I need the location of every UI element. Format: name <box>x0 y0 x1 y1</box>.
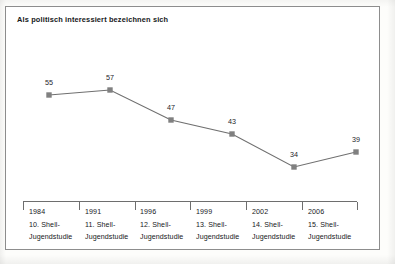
category-label-line: 11. Shell- <box>85 219 143 232</box>
category-label: 199111. Shell-Jugendstudie <box>85 206 143 244</box>
category-label-line: 14. Shell- <box>252 219 310 232</box>
category-label-line: 1999 <box>196 206 254 219</box>
category-label-line: 12. Shell- <box>140 219 198 232</box>
category-label-line: 1996 <box>140 206 198 219</box>
category-label: 200214. Shell-Jugendstudie <box>252 206 310 244</box>
data-point-marker <box>46 92 51 97</box>
data-point-marker <box>291 164 296 169</box>
category-label-line: Jugendstudie <box>196 231 254 244</box>
data-point-value: 57 <box>106 73 114 82</box>
chart-page: Als politisch interessiert bezeichnen si… <box>0 0 395 264</box>
category-label: 200615. Shell-Jugendstudie <box>308 206 366 244</box>
data-point-marker <box>107 87 112 92</box>
category-label-line: 1984 <box>29 206 87 219</box>
category-label-line: 2006 <box>308 206 366 219</box>
category-label: 199913. Shell-Jugendstudie <box>196 206 254 244</box>
data-point-marker <box>353 149 358 154</box>
category-label-line: Jugendstudie <box>29 231 87 244</box>
category-label-line: 1991 <box>85 206 143 219</box>
category-axis <box>23 201 357 202</box>
category-label-line: 2002 <box>252 206 310 219</box>
data-point-markers <box>46 87 358 169</box>
category-label: 199612. Shell-Jugendstudie <box>140 206 198 244</box>
series-line-politisch-interessiert <box>49 90 356 167</box>
data-point-value: 47 <box>167 103 175 112</box>
category-label-line: Jugendstudie <box>140 231 198 244</box>
data-point-value: 43 <box>228 117 236 126</box>
data-point-marker <box>229 131 234 136</box>
data-point-marker <box>168 117 173 122</box>
category-label: 198410. Shell-Jugendstudie <box>29 206 87 244</box>
category-label-line: 15. Shell- <box>308 219 366 232</box>
data-point-value: 34 <box>290 150 298 159</box>
category-label-line: 10. Shell- <box>29 219 87 232</box>
category-axis-labels: 198410. Shell-Jugendstudie199111. Shell-… <box>23 206 363 250</box>
category-label-line: Jugendstudie <box>85 231 143 244</box>
category-label-line: Jugendstudie <box>308 231 366 244</box>
data-point-value: 39 <box>352 135 360 144</box>
data-point-value: 55 <box>45 78 53 87</box>
category-label-line: 13. Shell- <box>196 219 254 232</box>
category-label-line: Jugendstudie <box>252 231 310 244</box>
